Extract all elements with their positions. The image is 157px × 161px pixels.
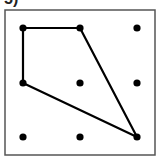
grid-dot-r1-c2 [133,79,140,86]
grid-dots [19,24,140,140]
grid-dot-r0-c1 [76,24,83,31]
grid-dot-r0-c0 [19,24,26,31]
grid-dot-r1-c0 [19,79,26,86]
grid-dot-r1-c1 [76,79,83,86]
geoboard-diagram [0,0,157,161]
grid-dot-r2-c0 [19,133,26,140]
grid-dot-r2-c2 [133,133,140,140]
grid-dot-r0-c2 [133,24,140,31]
grid-dot-r2-c1 [76,133,83,140]
